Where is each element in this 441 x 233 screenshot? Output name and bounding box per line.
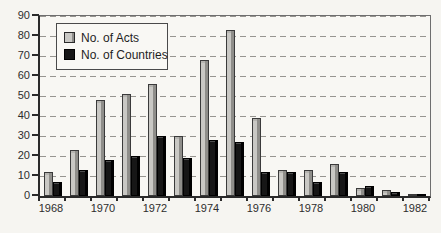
bar-acts-1970 xyxy=(96,100,105,196)
y-axis-tick-10 xyxy=(32,174,39,176)
x-axis-label-1978: 1978 xyxy=(289,202,333,215)
y-axis-tick-60 xyxy=(32,74,39,76)
gridline-50 xyxy=(40,96,430,97)
bar-countries-1970 xyxy=(105,160,114,196)
x-axis-label-1982: 1982 xyxy=(393,202,437,215)
countries-swatch-icon xyxy=(64,49,75,60)
bar-countries-1982 xyxy=(417,194,426,196)
legend-label-countries: No. of Countries xyxy=(81,48,168,62)
bar-acts-1978 xyxy=(304,170,313,196)
y-axis-label-40: 40 xyxy=(2,109,30,121)
y-axis-label-90: 90 xyxy=(2,9,30,21)
legend: No. of Acts No. of Countries xyxy=(56,23,168,70)
legend-item-acts: No. of Acts xyxy=(64,29,160,46)
x-axis-label-1974: 1974 xyxy=(185,202,229,215)
x-axis-tick-15 xyxy=(428,196,430,201)
y-axis-tick-50 xyxy=(32,94,39,96)
bar-acts-1968 xyxy=(44,172,53,196)
bar-countries-1969 xyxy=(79,170,88,196)
bar-chart-figure: No. of Acts No. of Countries 01020304050… xyxy=(0,0,441,233)
bar-acts-1972 xyxy=(148,84,157,196)
bar-countries-1979 xyxy=(339,172,348,196)
x-axis-tick-13 xyxy=(376,196,378,201)
gridline-60 xyxy=(40,76,430,77)
x-axis-tick-12 xyxy=(350,196,352,201)
bar-countries-1968 xyxy=(53,182,62,196)
bar-acts-1977 xyxy=(278,170,287,196)
x-axis-label-1976: 1976 xyxy=(237,202,281,215)
acts-swatch-icon xyxy=(64,32,75,43)
x-axis-tick-7 xyxy=(220,196,222,201)
x-axis-tick-1 xyxy=(64,196,66,201)
x-axis-label-1980: 1980 xyxy=(341,202,385,215)
y-axis-tick-30 xyxy=(32,134,39,136)
y-axis-label-30: 30 xyxy=(2,129,30,141)
x-axis-tick-6 xyxy=(194,196,196,201)
bar-acts-1979 xyxy=(330,164,339,196)
bar-acts-1974 xyxy=(200,60,209,196)
y-axis-label-0: 0 xyxy=(2,189,30,201)
bar-acts-1975 xyxy=(226,30,235,196)
bar-countries-1980 xyxy=(365,186,374,196)
y-axis-tick-40 xyxy=(32,114,39,116)
y-axis-label-70: 70 xyxy=(2,49,30,61)
y-axis-tick-80 xyxy=(32,34,39,36)
x-axis-tick-11 xyxy=(324,196,326,201)
x-axis-tick-9 xyxy=(272,196,274,201)
x-axis-label-1970: 1970 xyxy=(81,202,125,215)
legend-item-countries: No. of Countries xyxy=(64,46,160,63)
y-axis-label-80: 80 xyxy=(2,29,30,41)
bar-acts-1982 xyxy=(408,194,417,196)
bar-countries-1971 xyxy=(131,156,140,196)
bar-countries-1972 xyxy=(157,136,166,196)
bar-acts-1969 xyxy=(70,150,79,196)
bar-countries-1981 xyxy=(391,192,400,196)
x-axis-tick-8 xyxy=(246,196,248,201)
x-axis-tick-10 xyxy=(298,196,300,201)
y-axis-tick-70 xyxy=(32,54,39,56)
gridline-90 xyxy=(40,16,430,17)
bar-acts-1973 xyxy=(174,136,183,196)
y-axis-label-10: 10 xyxy=(2,169,30,181)
bar-countries-1973 xyxy=(183,158,192,196)
y-axis-label-60: 60 xyxy=(2,69,30,81)
x-axis-tick-4 xyxy=(142,196,144,201)
bar-countries-1974 xyxy=(209,140,218,196)
bar-countries-1976 xyxy=(261,172,270,196)
x-axis-tick-5 xyxy=(168,196,170,201)
y-axis-tick-90 xyxy=(32,14,39,16)
bar-countries-1978 xyxy=(313,182,322,196)
x-axis-tick-14 xyxy=(402,196,404,201)
bar-acts-1976 xyxy=(252,118,261,196)
x-axis-tick-3 xyxy=(116,196,118,201)
bar-countries-1977 xyxy=(287,172,296,196)
y-axis-tick-20 xyxy=(32,154,39,156)
bar-acts-1980 xyxy=(356,188,365,196)
x-axis-tick-0 xyxy=(38,196,40,201)
x-axis-label-1972: 1972 xyxy=(133,202,177,215)
bar-acts-1971 xyxy=(122,94,131,196)
x-axis-label-1968: 1968 xyxy=(29,202,73,215)
bar-acts-1981 xyxy=(382,190,391,196)
y-axis-label-50: 50 xyxy=(2,89,30,101)
bar-countries-1975 xyxy=(235,142,244,196)
x-axis-tick-2 xyxy=(90,196,92,201)
y-axis-label-20: 20 xyxy=(2,149,30,161)
legend-label-acts: No. of Acts xyxy=(81,31,139,45)
